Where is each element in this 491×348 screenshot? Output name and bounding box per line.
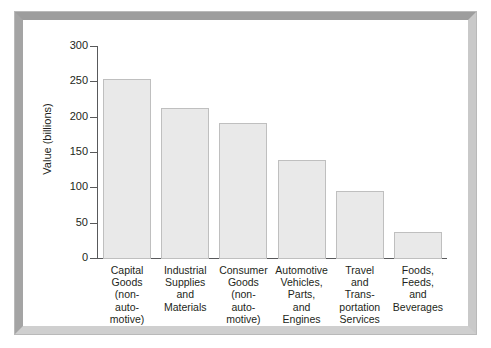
category-label-line: (non- [95,288,159,300]
y-axis-tick-mark [90,46,98,47]
y-axis-tick-label-wrap: 50 [45,223,88,224]
y-axis-tick-label-wrap: 150 [45,152,88,153]
category-label-line: Goods [211,276,275,288]
x-axis-category-label: ConsumerGoods(non-auto-motive) [211,264,275,325]
bar [219,123,267,259]
y-axis-tick-label: 150 [52,146,88,157]
y-axis-title: Value (billions) [41,84,53,194]
category-label-line: Foods, [386,264,450,276]
bar [103,79,151,259]
category-label-line: Supplies [153,276,217,288]
category-label-line: and [386,288,450,300]
category-label-line: auto- [211,301,275,313]
y-axis-tick-label: 300 [52,40,88,51]
category-label-line: motive) [211,313,275,325]
y-axis-tick-label: 250 [52,75,88,86]
category-label-line: and [270,301,334,313]
category-label-line: auto- [95,301,159,313]
bar [336,191,384,259]
y-axis-tick-label: 200 [52,111,88,122]
y-axis-tick-mark [90,187,98,188]
category-label-line: Capital [95,264,159,276]
y-axis-tick-mark [90,117,98,118]
category-label-line: Beverages [386,301,450,313]
x-axis-category-label: CapitalGoods(non-auto-motive) [95,264,159,325]
y-axis-tick-label-wrap: 200 [45,117,88,118]
category-label-line: (non- [211,288,275,300]
category-label-line: Engines [270,313,334,325]
y-axis-tick-label-wrap: 300 [45,46,88,47]
x-axis-category-label: IndustrialSuppliesandMaterials [153,264,217,313]
y-axis-tick-mark [90,152,98,153]
bar-chart: Value (billions) 050100150200250300 Capi… [23,20,468,326]
category-label-line: Travel [328,264,392,276]
bar [278,160,326,259]
x-axis-category-label: AutomotiveVehicles,Parts,andEngines [270,264,334,325]
y-axis-tick-label-wrap: 250 [45,81,88,82]
category-label-line: and [153,288,217,300]
category-label-line: Consumer [211,264,275,276]
x-axis-category-label: TravelandTrans-portationServices [328,264,392,325]
category-label-line: portation [328,301,392,313]
category-label-line: Services [328,313,392,325]
y-axis-tick-label: 100 [52,181,88,192]
category-label-line: and [328,276,392,288]
y-axis-tick-label-wrap: 100 [45,187,88,188]
y-axis-tick-label: 0 [52,252,88,263]
bar [394,232,442,259]
x-axis-category-labels: CapitalGoods(non-auto-motive)IndustrialS… [98,264,447,324]
y-axis-tick-mark [90,258,98,259]
bar [161,108,209,259]
category-label-line: Goods [95,276,159,288]
category-label-line: Materials [153,301,217,313]
category-label-line: Automotive [270,264,334,276]
x-axis-category-label: Foods,Feeds,andBeverages [386,264,450,313]
bars-layer [98,46,447,259]
category-label-line: Industrial [153,264,217,276]
y-axis-tick-label: 50 [52,217,88,228]
category-label-line: Feeds, [386,276,450,288]
category-label-line: motive) [95,313,159,325]
figure-frame: Value (billions) 050100150200250300 Capi… [14,11,477,335]
y-axis-tick-mark [90,81,98,82]
category-label-line: Parts, [270,288,334,300]
category-label-line: Vehicles, [270,276,334,288]
category-label-line: Trans- [328,288,392,300]
y-axis-tick-mark [90,223,98,224]
y-axis-tick-label-wrap: 0 [45,258,88,259]
